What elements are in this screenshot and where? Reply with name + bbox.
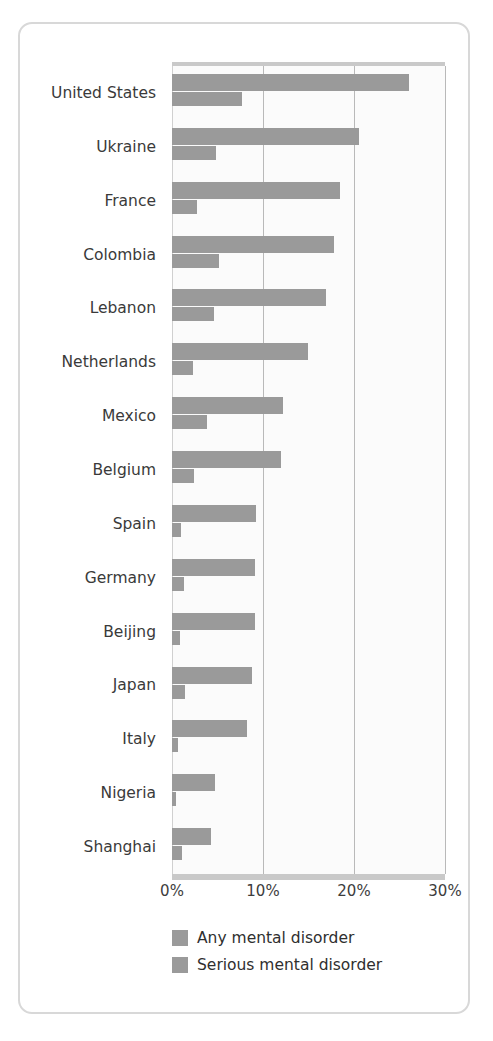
bar-serious-mental-disorder — [172, 146, 216, 160]
y-axis-labels: United StatesUkraineFranceColombiaLebano… — [20, 66, 166, 874]
bar-serious-mental-disorder — [172, 631, 180, 645]
bar-any-mental-disorder — [172, 397, 283, 414]
bar-group — [172, 389, 445, 443]
x-axis-tick-label: 10% — [246, 882, 279, 900]
bar-any-mental-disorder — [172, 343, 308, 360]
bar-any-mental-disorder — [172, 236, 334, 253]
y-axis-label: United States — [51, 66, 156, 120]
bar-chart: United StatesUkraineFranceColombiaLebano… — [20, 24, 468, 1012]
bar-serious-mental-disorder — [172, 92, 242, 106]
y-axis-label: Mexico — [102, 389, 156, 443]
bar-any-mental-disorder — [172, 720, 247, 737]
y-axis-label: Ukraine — [96, 120, 156, 174]
x-axis-tick-label: 30% — [428, 882, 461, 900]
bar-group — [172, 659, 445, 713]
y-axis-label: Italy — [122, 712, 156, 766]
x-axis-tick-label: 0% — [160, 882, 184, 900]
y-axis-label: Netherlands — [62, 335, 156, 389]
bar-any-mental-disorder — [172, 451, 281, 468]
y-axis-label: Belgium — [92, 443, 156, 497]
bar-serious-mental-disorder — [172, 792, 176, 806]
bar-group — [172, 335, 445, 389]
bar-group — [172, 66, 445, 120]
y-axis-label: Nigeria — [101, 766, 156, 820]
plot-bottom-rule — [172, 874, 445, 880]
bar-serious-mental-disorder — [172, 523, 181, 537]
bar-any-mental-disorder — [172, 74, 409, 91]
chart-legend: Any mental disorderSerious mental disord… — [172, 924, 452, 978]
plot-area — [172, 66, 445, 874]
bar-any-mental-disorder — [172, 559, 255, 576]
legend-swatch-icon — [172, 957, 188, 973]
y-axis-label: Germany — [85, 551, 156, 605]
legend-item[interactable]: Any mental disorder — [172, 924, 452, 951]
chart-card: United StatesUkraineFranceColombiaLebano… — [18, 22, 470, 1014]
bar-any-mental-disorder — [172, 667, 252, 684]
bar-serious-mental-disorder — [172, 200, 197, 214]
legend-swatch-icon — [172, 930, 188, 946]
bar-serious-mental-disorder — [172, 577, 184, 591]
bar-serious-mental-disorder — [172, 469, 194, 483]
bar-group — [172, 281, 445, 335]
legend-label: Serious mental disorder — [197, 956, 382, 974]
y-axis-label: Lebanon — [90, 281, 156, 335]
bar-any-mental-disorder — [172, 128, 359, 145]
x-axis-ticks: 0%10%20%30% — [172, 882, 445, 908]
bar-serious-mental-disorder — [172, 361, 193, 375]
y-axis-label: France — [104, 174, 156, 228]
bar-any-mental-disorder — [172, 182, 340, 199]
bar-serious-mental-disorder — [172, 738, 178, 752]
bar-group — [172, 120, 445, 174]
gridline-30 — [445, 66, 446, 874]
bar-group — [172, 443, 445, 497]
bar-serious-mental-disorder — [172, 846, 182, 860]
y-axis-label: Beijing — [103, 605, 156, 659]
y-axis-label: Colombia — [83, 228, 156, 282]
y-axis-label: Shanghai — [84, 820, 156, 874]
y-axis-label: Spain — [113, 497, 156, 551]
bar-group — [172, 551, 445, 605]
bar-serious-mental-disorder — [172, 415, 207, 429]
bar-any-mental-disorder — [172, 774, 215, 791]
legend-item[interactable]: Serious mental disorder — [172, 951, 452, 978]
bar-any-mental-disorder — [172, 505, 256, 522]
y-axis-label: Japan — [113, 659, 156, 713]
bar-group — [172, 497, 445, 551]
bar-serious-mental-disorder — [172, 254, 219, 268]
bar-rows — [172, 66, 445, 874]
bar-serious-mental-disorder — [172, 307, 214, 321]
legend-label: Any mental disorder — [197, 929, 354, 947]
bar-serious-mental-disorder — [172, 685, 185, 699]
bar-any-mental-disorder — [172, 828, 211, 845]
bar-group — [172, 228, 445, 282]
x-axis-tick-label: 20% — [337, 882, 370, 900]
bar-group — [172, 605, 445, 659]
bar-group — [172, 766, 445, 820]
bar-any-mental-disorder — [172, 289, 326, 306]
bar-group — [172, 174, 445, 228]
bar-group — [172, 820, 445, 874]
bar-group — [172, 712, 445, 766]
bar-any-mental-disorder — [172, 613, 255, 630]
